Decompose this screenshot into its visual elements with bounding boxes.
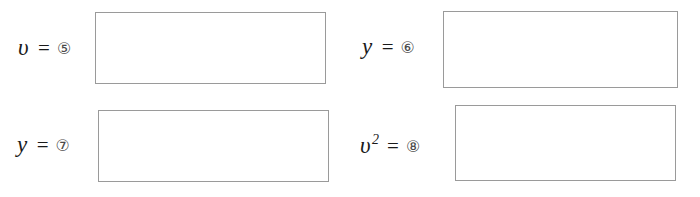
exponent-symbol: 2 bbox=[372, 133, 379, 147]
equals-sign: = bbox=[387, 136, 399, 157]
circled-number-marker: ⑤ bbox=[57, 41, 71, 57]
answer-box-6[interactable] bbox=[443, 11, 678, 88]
equation-label-7: y = ⑦ bbox=[17, 133, 70, 156]
equation-expression-5: υ = ⑤ bbox=[18, 36, 71, 59]
answer-box-7[interactable] bbox=[98, 110, 329, 182]
equation-expression-8: υ 2 = ⑧ bbox=[360, 134, 420, 157]
variable-symbol: y bbox=[362, 35, 373, 58]
variable-symbol: y bbox=[17, 133, 28, 156]
equation-expression-6: y = ⑥ bbox=[362, 35, 415, 58]
equals-sign: = bbox=[382, 37, 394, 58]
answer-box-8[interactable] bbox=[455, 105, 676, 181]
equation-expression-7: y = ⑦ bbox=[17, 133, 70, 156]
circled-number-marker: ⑧ bbox=[406, 139, 420, 155]
equals-sign: = bbox=[38, 38, 50, 59]
worksheet-canvas: υ = ⑤ y = ⑥ y = ⑦ υ 2 = ⑧ bbox=[0, 0, 700, 197]
variable-symbol: υ bbox=[360, 134, 371, 157]
equation-label-5: υ = ⑤ bbox=[18, 36, 71, 59]
circled-number-marker: ⑦ bbox=[56, 138, 70, 154]
equation-label-6: y = ⑥ bbox=[362, 35, 415, 58]
equals-sign: = bbox=[37, 135, 49, 156]
circled-number-marker: ⑥ bbox=[401, 40, 415, 56]
equation-label-8: υ 2 = ⑧ bbox=[360, 134, 420, 157]
variable-symbol: υ bbox=[18, 36, 29, 59]
answer-box-5[interactable] bbox=[95, 12, 326, 84]
